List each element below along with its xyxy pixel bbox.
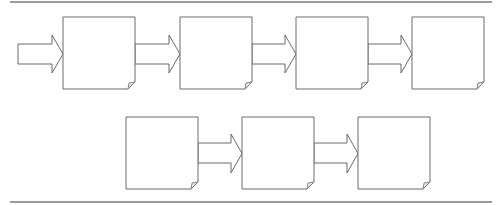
- flow-arrow-step-2-to-step-3: [252, 35, 296, 73]
- document-page-step-2: [180, 17, 252, 89]
- flow-arrow-step-6-to-step-7: [314, 134, 358, 173]
- process-flow-diagram: [0, 0, 502, 205]
- flow-arrow-step-5-to-step-6: [198, 134, 242, 173]
- flow-group: [18, 17, 484, 189]
- document-page-step-6: [242, 117, 314, 189]
- flow-arrow-step-1-to-step-2: [135, 35, 180, 73]
- folded-corner-icon: [245, 82, 252, 89]
- flow-arrow-step-3-to-step-4: [368, 35, 412, 73]
- folded-corner-icon: [477, 82, 484, 89]
- document-page-step-4: [412, 17, 484, 89]
- folded-corner-icon: [423, 182, 430, 189]
- document-page-step-7: [358, 117, 430, 189]
- document-page-step-5: [126, 117, 198, 189]
- document-page-step-3: [296, 17, 368, 89]
- folded-corner-icon: [128, 82, 135, 89]
- input-arrow: [18, 35, 63, 73]
- folded-corner-icon: [361, 82, 368, 89]
- document-page-step-1: [63, 17, 135, 89]
- folded-corner-icon: [191, 182, 198, 189]
- folded-corner-icon: [307, 182, 314, 189]
